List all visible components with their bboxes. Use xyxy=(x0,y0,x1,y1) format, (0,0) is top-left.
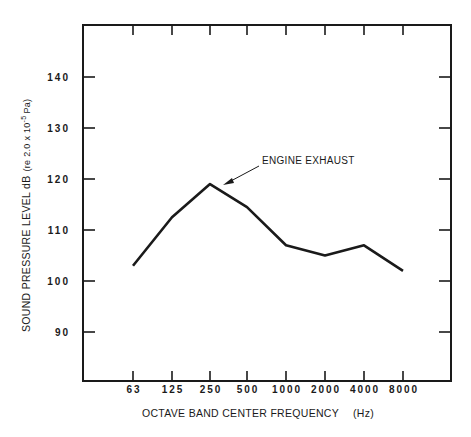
x-tick-label: 250 xyxy=(200,384,223,395)
plot-frame xyxy=(83,25,451,381)
annotation: ENGINE EXHAUST xyxy=(223,155,355,185)
x-tick-label: 125 xyxy=(162,384,185,395)
y-tick-label: 90 xyxy=(55,327,70,338)
x-axis-title: OCTAVE BAND CENTER FREQUENCY(Hz) xyxy=(142,407,374,419)
x-tick-label: 4000 xyxy=(350,384,380,395)
y-tick-label: 140 xyxy=(47,72,70,83)
x-tick-label: 63 xyxy=(126,384,141,395)
y-axis-title: SOUND PRESSURE LEVEL dB(re 2.0 x 10-5Pa) xyxy=(20,99,32,332)
x-tick-label: 1000 xyxy=(272,384,302,395)
x-axis-ticks: 631252505001000200040008000 xyxy=(126,25,419,395)
arrow-icon xyxy=(229,166,259,182)
x-tick-label: 8000 xyxy=(389,384,419,395)
y-tick-label: 110 xyxy=(48,225,70,236)
x-tick-label: 2000 xyxy=(311,384,341,395)
y-tick-label: 120 xyxy=(47,174,70,185)
line-engine-exhaust xyxy=(133,184,403,271)
y-axis-ticks: 90100110120130140 xyxy=(47,72,451,338)
y-tick-label: 100 xyxy=(47,276,70,287)
arrowhead-icon xyxy=(223,178,234,185)
chart: 90100110120130140 6312525050010002000400… xyxy=(0,0,471,437)
annotation-label: ENGINE EXHAUST xyxy=(262,155,355,166)
y-tick-label: 130 xyxy=(47,123,70,134)
x-tick-label: 500 xyxy=(237,384,260,395)
series-engine-exhaust xyxy=(133,184,403,271)
